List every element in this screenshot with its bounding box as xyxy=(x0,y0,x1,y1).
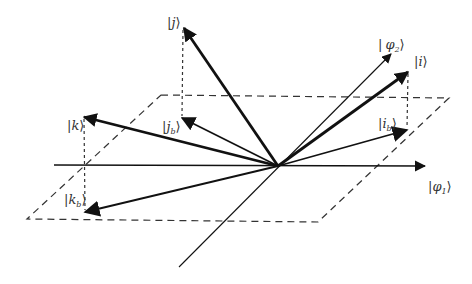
label-j-b: |jb⟩ xyxy=(162,119,181,136)
label-k: |k⟩ xyxy=(67,118,84,133)
vector-i xyxy=(278,72,408,166)
vector-diagram: |j⟩ |jb⟩ |k⟩ |kb⟩ |i⟩ |ib⟩ |φ1⟩ |φ2⟩ xyxy=(0,0,472,284)
axis-phi1 xyxy=(54,165,425,166)
label-i-b: |ib⟩ xyxy=(378,116,397,133)
label-k-b: |kb⟩ xyxy=(64,192,86,209)
basis-plane xyxy=(27,95,449,222)
projection-line-j xyxy=(182,30,183,116)
label-i: |i⟩ xyxy=(414,54,428,69)
label-phi2: |φ2⟩ xyxy=(378,37,405,54)
projection-line-i xyxy=(407,74,408,128)
vector-j-b xyxy=(182,118,278,166)
label-j: |j⟩ xyxy=(167,15,181,30)
label-phi1: |φ1⟩ xyxy=(428,179,452,196)
vector-k-b xyxy=(85,166,278,212)
